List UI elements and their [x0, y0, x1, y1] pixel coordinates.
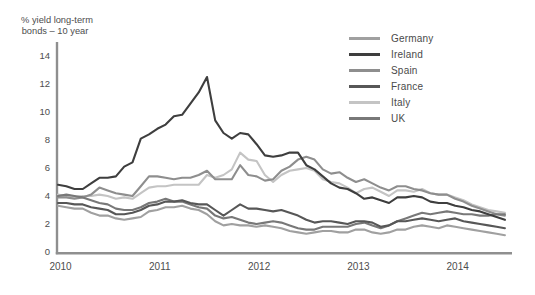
legend-label: Ireland [391, 49, 423, 60]
x-tick-label: 2010 [49, 261, 72, 272]
bond-yield-chart: % yield long-term bonds – 10 year 024681… [0, 0, 535, 295]
legend-label: Italy [391, 97, 410, 108]
legend-swatch-italy [349, 101, 380, 104]
legend-label: Spain [391, 65, 418, 76]
legend-item-ireland: Ireland [349, 47, 434, 63]
legend-label: UK [391, 113, 405, 124]
legend-label: Germany [391, 33, 434, 44]
x-tick-label: 2013 [347, 261, 370, 272]
y-axis-title-line2: bonds – 10 year [22, 26, 89, 36]
x-tick-label: 2014 [447, 261, 470, 272]
y-tick-label: 14 [39, 50, 50, 61]
legend-item-spain: Spain [349, 63, 434, 79]
y-tick-label: 10 [39, 106, 50, 117]
plot-svg: % yield long-term bonds – 10 year 024681… [0, 0, 535, 295]
legend: GermanyIrelandSpainFranceItalyUK [349, 31, 434, 126]
y-tick-label: 12 [39, 78, 50, 89]
legend-swatch-france [349, 85, 380, 88]
legend-item-uk: UK [349, 110, 434, 126]
data-lines [58, 77, 505, 235]
y-tick-label: 6 [45, 162, 50, 173]
legend-swatch-ireland [349, 53, 380, 56]
legend-item-germany: Germany [349, 31, 434, 47]
legend-swatch-spain [349, 69, 380, 72]
y-tick-label: 8 [45, 134, 50, 145]
y-axis-title-line1: % yield long-term [21, 15, 93, 25]
legend-swatch-germany [349, 37, 380, 40]
line-france [58, 200, 505, 228]
legend-item-italy: Italy [349, 95, 434, 111]
y-tick-label: 4 [45, 190, 50, 201]
legend-label: France [391, 81, 423, 92]
y-tick-label: 2 [45, 218, 50, 229]
x-tick-label: 2012 [248, 261, 271, 272]
legend-item-france: France [349, 79, 434, 95]
legend-swatch-uk [349, 117, 380, 120]
line-uk [58, 195, 505, 230]
y-tick-label: 0 [45, 246, 50, 257]
x-tick-label: 2011 [149, 261, 171, 272]
